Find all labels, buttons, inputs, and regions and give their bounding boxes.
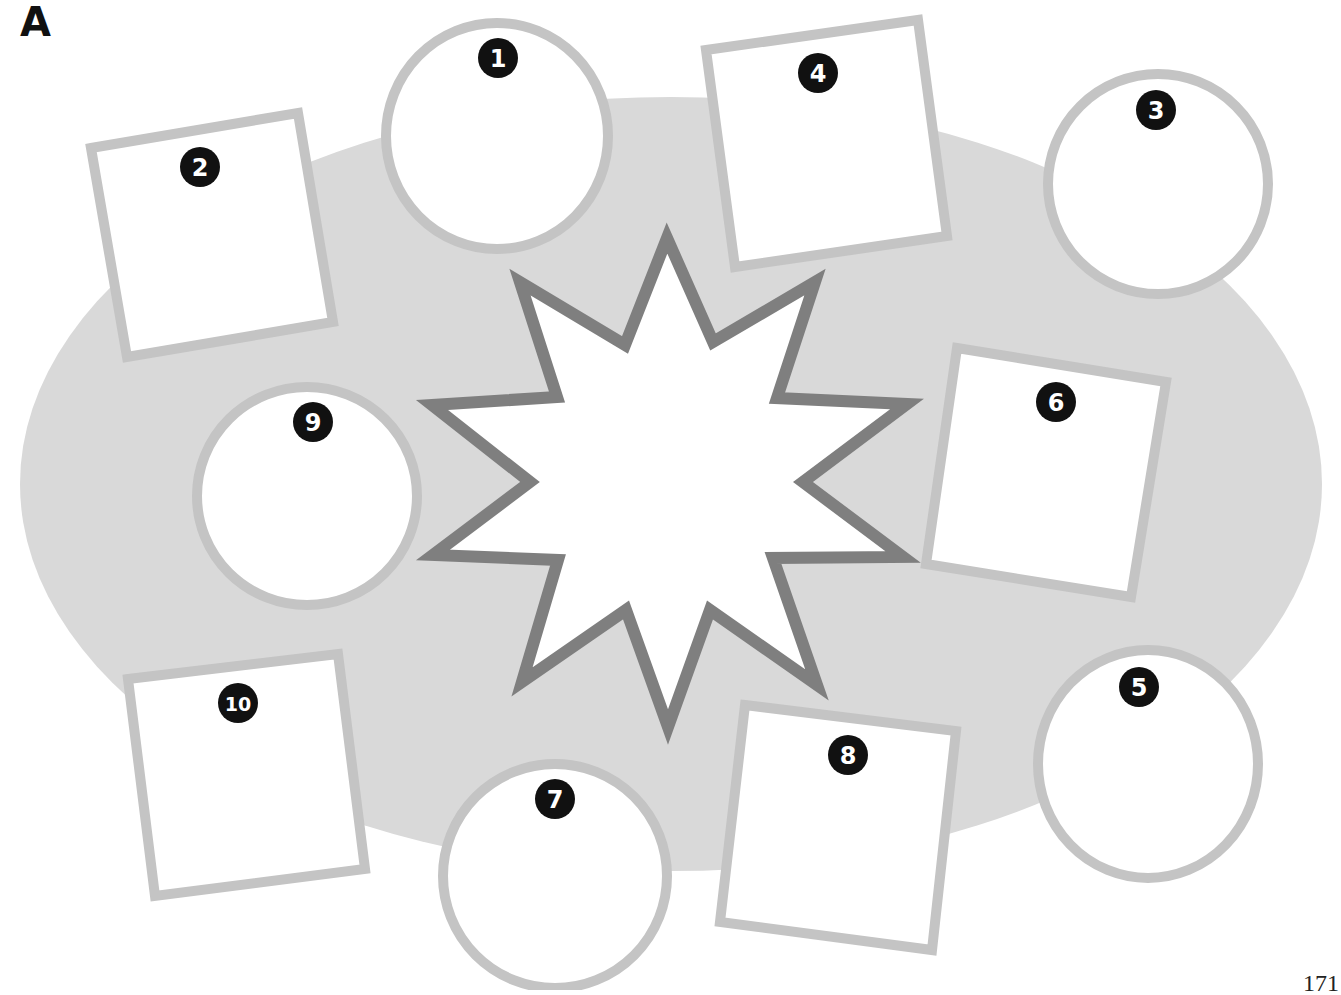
badge-number: 3 (1148, 97, 1165, 125)
number-badge-7: 7 (535, 779, 575, 819)
badge-number: 7 (547, 786, 564, 814)
badge-number: 8 (840, 742, 857, 770)
page-number: 171 (1303, 970, 1339, 995)
number-badge-2: 2 (180, 147, 220, 187)
number-badge-5: 5 (1119, 667, 1159, 707)
number-badge-3: 3 (1136, 90, 1176, 130)
number-badge-1: 1 (478, 38, 518, 78)
badge-number: 10 (225, 693, 251, 715)
number-badge-9: 9 (293, 402, 333, 442)
number-badge-4: 4 (798, 53, 838, 93)
badge-number: 9 (305, 409, 322, 437)
number-badge-10: 10 (218, 683, 258, 723)
badge-number: 1 (490, 45, 507, 73)
badge-number: 4 (810, 60, 827, 88)
square-2 (91, 113, 333, 357)
badge-number: 2 (192, 154, 209, 182)
badge-number: 5 (1131, 674, 1148, 702)
badge-number: 6 (1048, 389, 1065, 417)
number-badge-8: 8 (828, 735, 868, 775)
number-badge-6: 6 (1036, 382, 1076, 422)
panel-label: A (20, 2, 51, 42)
